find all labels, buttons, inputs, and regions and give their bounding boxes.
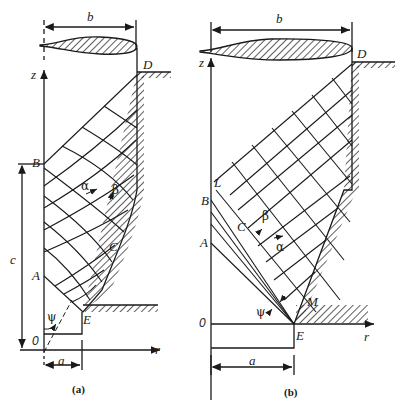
label-alpha-b: α	[276, 241, 284, 253]
label-psi-a: ψ	[47, 311, 56, 323]
label-B-b: B	[201, 194, 209, 207]
caption-a: (a)	[72, 383, 85, 395]
label-origin-a: 0	[32, 335, 39, 347]
label-D-b: D	[357, 47, 366, 60]
ground-hatch-E-a	[85, 305, 158, 312]
label-r-a: r	[155, 343, 160, 356]
label-A-b: A	[200, 236, 208, 249]
slip-line-field-figure: b z D B α β C c A ψ E 0 r a (a) b z D L …	[0, 0, 398, 408]
label-r-b: r	[364, 330, 369, 343]
label-beta-b: β	[262, 210, 269, 222]
label-b-b: b	[276, 12, 283, 25]
label-alpha-a: α	[81, 180, 89, 192]
hatched-lens-a	[40, 37, 137, 54]
label-A-a: A	[32, 269, 40, 282]
label-z-a: z	[31, 68, 36, 81]
slip-line-mesh-b	[211, 64, 352, 324]
caption-b: (b)	[284, 386, 297, 398]
label-z-b: z	[199, 56, 204, 69]
label-c-a: c	[10, 253, 16, 266]
label-psi-b: ψ	[256, 306, 265, 318]
label-C-a: C	[109, 240, 118, 253]
label-a-a: a	[58, 354, 65, 367]
label-D-a: D	[143, 58, 152, 71]
hatched-lens-b	[200, 39, 352, 60]
label-C-b: C	[237, 220, 246, 233]
label-a-b: a	[249, 354, 256, 367]
label-M-b: M	[307, 295, 318, 308]
label-b-a: b	[87, 10, 94, 23]
label-beta-a: β	[112, 184, 119, 196]
label-E-a: E	[83, 313, 91, 326]
label-B-a: B	[32, 156, 40, 169]
figure-a	[18, 20, 171, 370]
label-origin-b: 0	[199, 317, 206, 329]
label-L-b: L	[214, 176, 221, 189]
label-E-b: E	[296, 329, 304, 342]
